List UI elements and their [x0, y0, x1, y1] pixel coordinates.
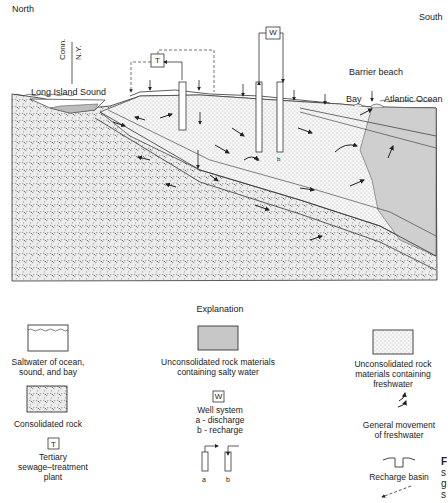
well-box-label: W [266, 28, 280, 38]
clipped-caption-text: F s g s [441, 456, 447, 500]
legend-freshwater-movement-label: General movementof freshwater [352, 420, 446, 440]
bay-label: Bay [346, 94, 362, 104]
legend-salty-rock-label: Unconsolidated rock materialscontaining … [150, 357, 286, 377]
well-a [256, 82, 262, 152]
legend-well-a-label: a [202, 475, 206, 485]
north-label: North [12, 4, 34, 14]
saltwater-swatch [28, 325, 68, 351]
well-a-label: a [256, 154, 259, 164]
atlantic-ocean-label: Atlantic Ocean [384, 94, 443, 104]
legend-well-system-label: Well systema - dischargeb - recharge [180, 405, 260, 435]
legend-well-b-label: b [226, 475, 230, 485]
treatment-box-label: T [151, 56, 164, 66]
salty-rock-swatch [198, 326, 238, 350]
south-label: South [419, 12, 443, 22]
legend-treatment-box: T [48, 440, 59, 450]
freshwater-movement-arrows-icon [398, 393, 406, 407]
legend-recharge-basin-label: Recharge basin [352, 472, 446, 482]
explanation-title: Explanation [190, 304, 250, 314]
consolidated-rock-swatch [27, 386, 67, 412]
legend-treatment-plant-label: Tertiarysewage–treatmentplant [0, 452, 106, 482]
conn-label: Conn. [58, 39, 68, 60]
long-island-sound-label: Long Island Sound [31, 87, 106, 97]
dashed-arrow-icon [382, 486, 411, 497]
well-b-label: b [277, 154, 280, 164]
well-b [277, 82, 283, 152]
barrier-beach-label: Barrier beach [349, 67, 403, 77]
ny-label: N.Y. [74, 45, 84, 60]
recharge-basin-icon [383, 458, 415, 467]
legend-consolidated-label: Consolidated rock [0, 419, 96, 429]
fresh-rock-swatch [373, 330, 413, 354]
well-system-icon [202, 446, 239, 471]
legend-well-box: W [213, 392, 224, 402]
legend-fresh-rock-label: Unconsolidated rockmaterials containingf… [346, 359, 440, 389]
legend-saltwater-label: Saltwater of ocean,sound, and bay [0, 357, 96, 377]
sewage-well [179, 82, 186, 130]
